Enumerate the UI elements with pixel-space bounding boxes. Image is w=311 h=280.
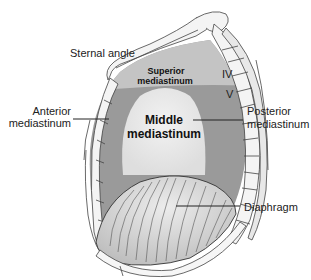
vertebra-iv-label: IV (222, 68, 233, 80)
middle-mediastinum-label: Middle (145, 113, 183, 127)
posterior-mediastinum-label: Posterior (247, 105, 291, 117)
mediastinum-diagram: IV V Superior mediastinum Middle mediast… (0, 0, 311, 280)
anterior-mediastinum-label: Anterior (32, 105, 71, 117)
vertebra-v-label: V (226, 88, 234, 100)
anterior-mediastinum-label-2: mediastinum (9, 117, 71, 129)
sternal-angle-label: Sternal angle (70, 47, 135, 59)
superior-mediastinum-label-2: mediastinum (137, 76, 193, 86)
posterior-mediastinum-label-2: mediastinum (247, 118, 309, 130)
middle-mediastinum-label-2: mediastinum (127, 127, 201, 141)
diaphragm-label: Diaphragm (244, 201, 298, 213)
superior-mediastinum-label: Superior (147, 66, 185, 76)
